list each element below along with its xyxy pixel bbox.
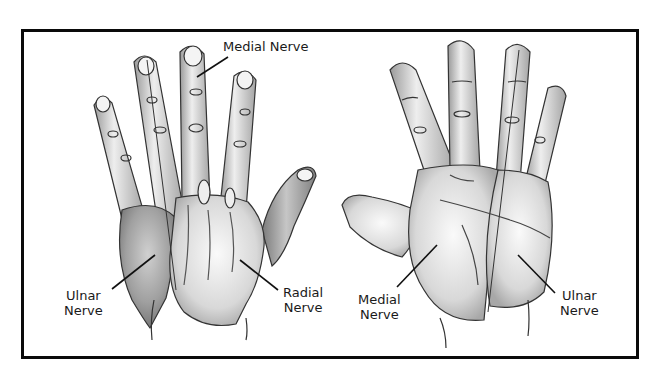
dorsal-thumb: [262, 167, 316, 266]
palmar-ring-finger: [496, 44, 530, 183]
label-line-2: Nerve: [283, 300, 323, 315]
label-dorsal-ulnar-nerve: Ulnar Nerve: [64, 288, 103, 318]
label-line-2: Nerve: [358, 307, 401, 322]
label-dorsal-medial-nerve: Medial Nerve: [223, 39, 309, 54]
label-line-1: Medial: [358, 292, 401, 307]
palmar-middle-finger: [448, 41, 480, 174]
label-palmar-ulnar-nerve: Ulnar Nerve: [560, 288, 599, 318]
hand-illustrations: [0, 0, 658, 381]
label-line-1: Ulnar: [560, 288, 599, 303]
label-palmar-medial-nerve: Medial Nerve: [358, 292, 401, 322]
label-line-1: Ulnar: [64, 288, 103, 303]
label-dorsal-radial-nerve: Radial Nerve: [283, 285, 323, 315]
dorsal-index-finger: [220, 72, 256, 212]
dorsal-ring-finger: [134, 56, 184, 216]
dorsal-little-finger: [94, 98, 144, 220]
label-line-2: Nerve: [560, 303, 599, 318]
palmar-medial-area: [409, 165, 498, 320]
label-text: Medial Nerve: [223, 39, 309, 54]
palmar-index-finger: [390, 63, 456, 175]
dorsal-radial-area: [170, 195, 264, 326]
label-line-2: Nerve: [64, 303, 103, 318]
label-line-1: Radial: [283, 285, 323, 300]
